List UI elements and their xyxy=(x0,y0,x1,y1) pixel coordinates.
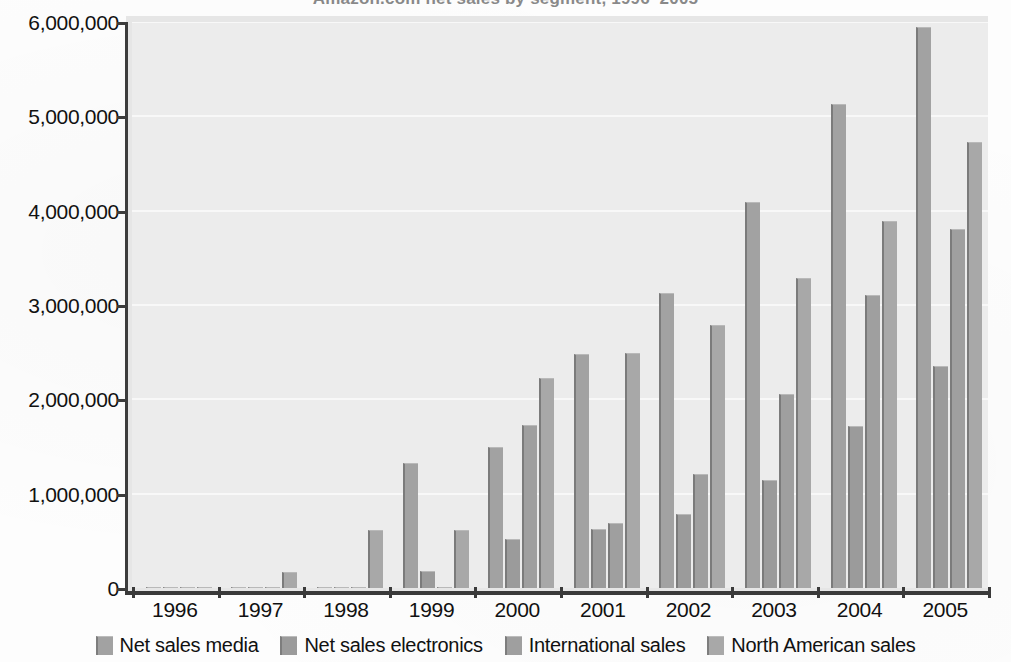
chart-legend: Net sales mediaNet sales electronicsInte… xyxy=(0,631,1011,659)
x-tick-label: 1996 xyxy=(152,598,198,622)
legend-item[interactable]: Net sales electronics xyxy=(280,635,482,656)
x-tick-label: 1998 xyxy=(323,598,369,622)
bar xyxy=(197,587,212,588)
bar-group xyxy=(902,22,988,588)
bar-group xyxy=(389,22,475,588)
y-tick-label: 4,000,000 xyxy=(28,200,119,221)
x-tick-label: 2003 xyxy=(751,598,797,622)
bar-group xyxy=(303,22,389,588)
x-tick-label: 2002 xyxy=(666,598,712,622)
x-tick-label: 2000 xyxy=(494,598,540,622)
y-axis-line xyxy=(125,22,128,594)
x-tick-mark xyxy=(132,587,135,598)
x-tick-mark xyxy=(474,587,477,598)
bar-group xyxy=(646,22,732,588)
y-tick-label: 3,000,000 xyxy=(28,295,119,316)
y-tick-mark xyxy=(117,305,128,308)
bar xyxy=(762,480,777,588)
bar xyxy=(916,27,931,588)
bar xyxy=(505,539,520,588)
bar xyxy=(882,221,897,588)
x-tick-mark xyxy=(560,587,563,598)
bar xyxy=(865,295,880,588)
bar xyxy=(796,278,811,588)
legend-swatch-icon xyxy=(505,636,522,655)
y-tick-label: 1,000,000 xyxy=(28,483,119,504)
bar-group xyxy=(731,22,817,588)
x-tick-mark xyxy=(218,587,221,598)
y-tick-label: 6,000,000 xyxy=(28,12,119,33)
bar-group xyxy=(132,22,218,588)
bar xyxy=(146,587,161,588)
legend-label: Net sales media xyxy=(120,635,259,656)
x-tick-mark xyxy=(731,587,734,598)
y-tick-mark xyxy=(117,399,128,402)
bar xyxy=(522,425,537,588)
bar xyxy=(967,142,982,588)
bar xyxy=(437,587,452,588)
x-tick-mark xyxy=(646,587,649,598)
y-tick-mark xyxy=(117,494,128,497)
legend-label: International sales xyxy=(529,635,686,656)
bar xyxy=(933,366,948,588)
bar xyxy=(248,587,263,588)
bar xyxy=(848,426,863,588)
bar xyxy=(676,514,691,588)
bar xyxy=(317,587,332,588)
x-axis-line xyxy=(125,591,991,595)
y-tick-mark xyxy=(117,22,128,25)
y-tick-mark xyxy=(117,116,128,119)
legend-label: North American sales xyxy=(731,635,915,656)
bar xyxy=(779,394,794,588)
bar xyxy=(265,587,280,588)
y-tick-label: 2,000,000 xyxy=(28,389,119,410)
bar xyxy=(454,530,469,588)
x-tick-mark xyxy=(303,587,306,598)
x-tick-label: 2001 xyxy=(580,598,626,622)
bar xyxy=(659,293,674,588)
x-tick-label: 2005 xyxy=(922,598,968,622)
bar xyxy=(710,325,725,588)
y-tick-mark xyxy=(117,588,128,591)
bar-group xyxy=(560,22,646,588)
y-axis-labels: 01,000,0002,000,0003,000,0004,000,0005,0… xyxy=(0,0,128,612)
bar xyxy=(693,474,708,588)
legend-swatch-icon xyxy=(96,636,113,655)
x-tick-label: 1999 xyxy=(409,598,455,622)
bar xyxy=(420,571,435,588)
y-tick-mark xyxy=(117,211,128,214)
chart-title: Amazon.com net sales by segment, 1996–20… xyxy=(0,0,1011,7)
bar xyxy=(180,587,195,588)
bar xyxy=(368,530,383,588)
legend-item[interactable]: Net sales media xyxy=(96,635,259,656)
x-tick-mark xyxy=(988,587,991,598)
bar xyxy=(591,529,606,588)
legend-swatch-icon xyxy=(280,636,297,655)
bar xyxy=(334,587,349,588)
x-tick-label: 1997 xyxy=(238,598,284,622)
bar xyxy=(231,587,246,588)
bar xyxy=(163,587,178,588)
bar xyxy=(282,572,297,588)
bar xyxy=(831,104,846,588)
legend-label: Net sales electronics xyxy=(304,635,482,656)
bar xyxy=(351,587,366,588)
bar xyxy=(745,202,760,588)
bar xyxy=(625,353,640,588)
x-axis-labels: 1996199719981999200020012002200320042005 xyxy=(132,598,988,628)
legend-swatch-icon xyxy=(707,636,724,655)
bar xyxy=(488,447,503,589)
bar-chart-figure: Amazon.com net sales by segment, 1996–20… xyxy=(0,0,1011,662)
x-tick-label: 2004 xyxy=(837,598,883,622)
bar xyxy=(403,463,418,588)
x-tick-mark xyxy=(389,587,392,598)
legend-item[interactable]: International sales xyxy=(505,635,686,656)
bar xyxy=(950,229,965,588)
bar-group xyxy=(817,22,903,588)
bar xyxy=(574,354,589,588)
legend-item[interactable]: North American sales xyxy=(707,635,915,656)
bar-group xyxy=(474,22,560,588)
bar xyxy=(539,378,554,588)
plot-frame xyxy=(132,22,988,594)
y-tick-label: 5,000,000 xyxy=(28,106,119,127)
